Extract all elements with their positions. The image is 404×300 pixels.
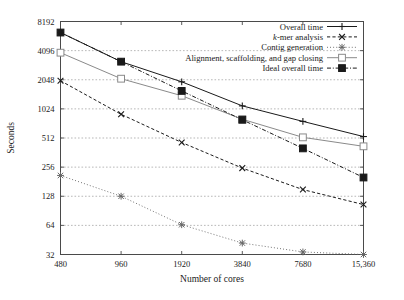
y-tick-label-8192: 8192 bbox=[38, 17, 55, 27]
chart-figure: 32641282565121024204840968192 4809601920… bbox=[0, 0, 404, 300]
x-axis-title: Number of cores bbox=[180, 274, 244, 284]
y-tick-label-4096: 4096 bbox=[38, 46, 55, 56]
y-axis-title: Seconds bbox=[6, 122, 16, 154]
x-tick-label-960: 960 bbox=[115, 259, 128, 269]
y-tick-label-128: 128 bbox=[42, 191, 55, 201]
x-tick-label-1920: 1920 bbox=[173, 259, 190, 269]
point-contig-generation-7680 bbox=[300, 249, 307, 256]
x-tick-label-3840: 3840 bbox=[234, 259, 251, 269]
y-tick-label-512: 512 bbox=[42, 133, 55, 143]
point-ideal-overall-time-3840 bbox=[239, 116, 246, 123]
x-tick-label-480: 480 bbox=[54, 259, 67, 269]
point-ideal-overall-time-7680 bbox=[300, 145, 307, 152]
point-ideal-overall-time-1920 bbox=[178, 88, 185, 95]
point-contig-generation-3840 bbox=[239, 240, 246, 247]
y-tick-label-256: 256 bbox=[42, 162, 55, 172]
x-tick-label-7680: 7680 bbox=[294, 259, 311, 269]
marker-asterisk bbox=[339, 44, 346, 51]
point-alignment-scaffolding-and-gap-closing-960 bbox=[118, 75, 125, 82]
legend-label-ideal-overall-time: Ideal overall time bbox=[262, 63, 323, 73]
y-tick-label-64: 64 bbox=[46, 220, 55, 230]
point-contig-generation-15,360 bbox=[360, 251, 367, 258]
performance-scaling-chart: 32641282565121024204840968192 4809601920… bbox=[0, 0, 404, 300]
point-contig-generation-960 bbox=[118, 193, 125, 200]
legend-label-k-mer-analysis: k-mer analysis bbox=[273, 32, 324, 42]
legend-label-contig-generation: Contig generation bbox=[261, 42, 324, 52]
point-contig-generation-480 bbox=[57, 172, 64, 179]
x-tick-label-15,360: 15,360 bbox=[352, 259, 375, 269]
legend-label-overall-time: Overall time bbox=[280, 22, 323, 32]
point-alignment-scaffolding-and-gap-closing-7680 bbox=[300, 134, 307, 141]
y-tick-label-2048: 2048 bbox=[38, 75, 55, 85]
legend-label-alignment-scaffolding-and-gap-closing: Alignment, scaffolding, and gap closing bbox=[185, 53, 323, 63]
point-contig-generation-1920 bbox=[178, 221, 185, 228]
y-tick-label-1024: 1024 bbox=[38, 104, 56, 114]
legend-item-ideal-overall-time: Ideal overall time bbox=[262, 63, 357, 73]
point-alignment-scaffolding-and-gap-closing-480 bbox=[57, 49, 64, 56]
marker-filled-square bbox=[339, 65, 346, 72]
point-ideal-overall-time-15,360 bbox=[360, 174, 367, 181]
point-alignment-scaffolding-and-gap-closing-15,360 bbox=[360, 143, 367, 150]
marker-open-square bbox=[339, 54, 346, 61]
